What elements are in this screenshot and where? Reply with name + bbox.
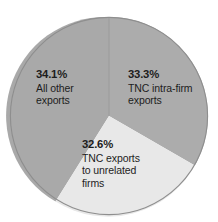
slice-percent-other-exports: 34.1%: [36, 68, 74, 82]
slice-label-unrelated-firms: 32.6% TNC exports to unrelated firms: [82, 138, 140, 189]
slice-name-line-intra-firm-2: exports: [128, 94, 193, 106]
slice-percent-unrelated-firms: 32.6%: [82, 138, 140, 152]
slice-name-line-unrelated-firms-3: firms: [82, 177, 140, 189]
slice-name-line-unrelated-firms-2: to unrelated: [82, 164, 140, 176]
slice-name-line-other-exports-1: All other: [36, 82, 74, 94]
slice-label-intra-firm: 33.3% TNC intra-firm exports: [128, 68, 193, 107]
slice-name-line-other-exports-2: exports: [36, 94, 74, 106]
slice-label-other-exports: 34.1% All other exports: [36, 68, 74, 107]
pie-chart: 34.1% All other exports 33.3% TNC intra-…: [0, 0, 218, 222]
slice-name-line-unrelated-firms-1: TNC exports: [82, 152, 140, 164]
slice-percent-intra-firm: 33.3%: [128, 68, 193, 82]
slice-name-line-intra-firm-1: TNC intra-firm: [128, 82, 193, 94]
